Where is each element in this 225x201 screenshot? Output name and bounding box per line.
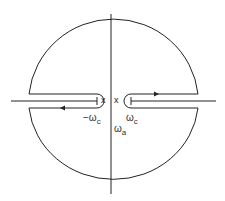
contour-upper-arc <box>29 19 198 94</box>
contour-diagram <box>0 0 225 201</box>
label-neg-omega-c: −ωc <box>83 113 101 127</box>
left-arrow-icon <box>60 106 65 111</box>
label-neg-omega-c-main: −ω <box>83 112 97 123</box>
right-pole-marker: x <box>114 96 119 105</box>
label-omega-a-main: ω <box>114 123 122 134</box>
label-omega-c: ωc <box>126 113 138 127</box>
left-pole-marker: x <box>101 96 106 105</box>
label-omega-c-main: ω <box>126 112 134 123</box>
right-arrow-icon <box>154 92 159 97</box>
contour-lower-arc <box>29 108 198 179</box>
label-neg-omega-c-sub: c <box>97 117 101 126</box>
label-omega-a-sub: a <box>122 128 126 137</box>
label-omega-a: ωa <box>114 124 126 138</box>
label-omega-c-sub: c <box>134 117 138 126</box>
